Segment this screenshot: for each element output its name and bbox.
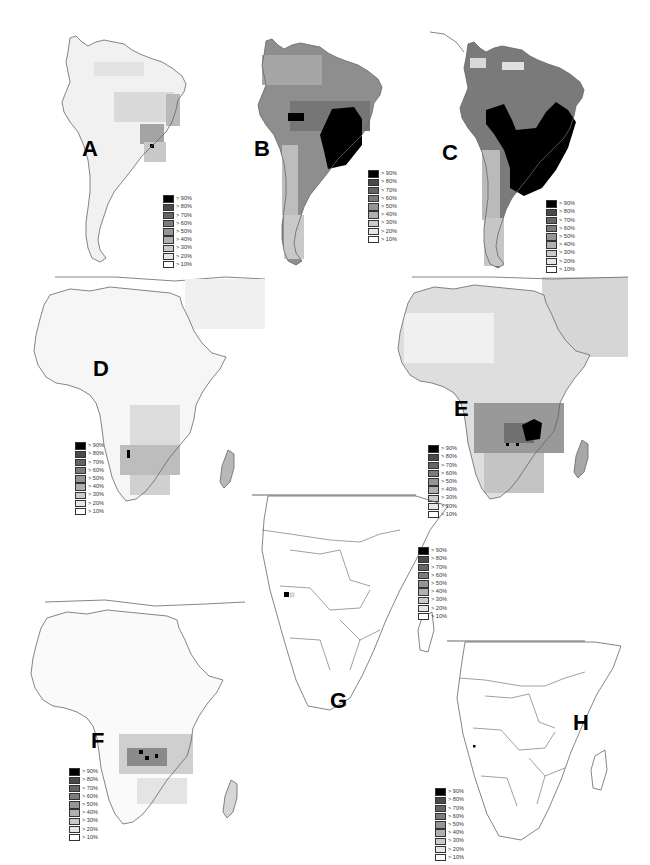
legend-swatch	[75, 467, 86, 474]
legend-label: > 40%	[88, 484, 104, 490]
legend-row: > 10%	[69, 834, 98, 842]
legend-swatch	[435, 829, 446, 836]
map-panel-e: E > 90%> 80%> 70%> 60%> 50%> 40%> 30%> 2…	[392, 275, 650, 490]
map-panel-d: D > 90%> 80%> 70%> 60%> 50%> 40%> 30%> 2…	[25, 275, 265, 520]
legend-swatch	[546, 258, 557, 265]
legend-label: > 60%	[176, 221, 192, 227]
legend-swatch	[163, 245, 174, 252]
legend-label: > 80%	[431, 556, 447, 562]
legend-swatch	[418, 564, 429, 571]
legend-label: > 10%	[559, 267, 575, 273]
legend-label: > 70%	[88, 460, 104, 466]
legend-swatch	[75, 451, 86, 458]
legend-label: > 30%	[176, 245, 192, 251]
legend-row: > 50%	[418, 580, 447, 588]
legend-label: > 50%	[448, 822, 464, 828]
panel-label-g: G	[330, 690, 347, 712]
legend-swatch	[163, 236, 174, 243]
legend-row: > 50%	[69, 801, 98, 809]
legend-label: > 20%	[448, 847, 464, 853]
legend-swatch	[435, 788, 446, 795]
panel-label-c: C	[442, 142, 458, 164]
legend-label: > 20%	[82, 827, 98, 833]
panel-label-b: B	[254, 138, 270, 160]
legend-label: > 90%	[448, 789, 464, 795]
panel-label-h: H	[573, 712, 589, 734]
legend-label: > 90%	[82, 769, 98, 775]
legend-row: > 20%	[418, 604, 447, 612]
legend-row: > 40%	[418, 588, 447, 596]
legend-swatch	[368, 179, 379, 186]
legend-swatch	[418, 580, 429, 587]
legend-row: > 20%	[75, 499, 104, 507]
legend-row: > 30%	[418, 596, 447, 604]
legend-row: > 30%	[435, 837, 464, 845]
legend-swatch	[69, 801, 80, 808]
legend-label: > 70%	[431, 565, 447, 571]
legend-h: > 90%> 80%> 70%> 60%> 50%> 40%> 30%> 20%…	[435, 788, 464, 862]
legend-row: > 60%	[69, 793, 98, 801]
legend-swatch	[69, 785, 80, 792]
legend-row: > 30%	[163, 244, 192, 252]
legend-row: > 20%	[368, 227, 397, 235]
legend-row: > 70%	[368, 186, 397, 194]
legend-swatch	[418, 556, 429, 563]
legend-row: > 80%	[163, 203, 192, 211]
legend-d: > 90%> 80%> 70%> 60%> 50%> 40%> 30%> 20%…	[75, 442, 104, 516]
legend-row: > 30%	[75, 491, 104, 499]
legend-swatch	[368, 236, 379, 243]
legend-swatch	[163, 261, 174, 268]
legend-label: > 40%	[431, 589, 447, 595]
legend-swatch	[163, 204, 174, 211]
legend-swatch	[75, 492, 86, 499]
legend-swatch	[546, 217, 557, 224]
legend-row: > 80%	[75, 450, 104, 458]
legend-swatch	[428, 454, 439, 461]
legend-swatch	[163, 253, 174, 260]
legend-label: > 60%	[381, 196, 397, 202]
legend-label: > 30%	[448, 838, 464, 844]
legend-swatch	[163, 220, 174, 227]
legend-row: > 20%	[435, 845, 464, 853]
legend-label: > 50%	[82, 802, 98, 808]
legend-row: > 50%	[163, 228, 192, 236]
legend-row: > 50%	[435, 821, 464, 829]
legend-label: > 80%	[448, 797, 464, 803]
legend-label: > 90%	[559, 201, 575, 207]
legend-label: > 50%	[88, 476, 104, 482]
legend-label: > 90%	[176, 196, 192, 202]
legend-row: > 90%	[75, 442, 104, 450]
legend-row: > 20%	[69, 825, 98, 833]
legend-swatch	[418, 572, 429, 579]
legend-row: > 90%	[428, 445, 457, 453]
legend-swatch	[418, 605, 429, 612]
legend-label: > 60%	[448, 814, 464, 820]
legend-label: > 40%	[381, 212, 397, 218]
legend-row: > 40%	[163, 236, 192, 244]
legend-label: > 80%	[176, 204, 192, 210]
legend-label: > 30%	[381, 220, 397, 226]
legend-row: > 40%	[435, 829, 464, 837]
legend-row: > 70%	[163, 211, 192, 219]
legend-swatch	[69, 768, 80, 775]
legend-b: > 90%> 80%> 70%> 60%> 50%> 40%> 30%> 20%…	[368, 170, 397, 244]
legend-row: > 10%	[75, 508, 104, 516]
legend-swatch	[163, 228, 174, 235]
legend-swatch	[69, 809, 80, 816]
panel-label-a: A	[82, 138, 98, 160]
legend-row: > 10%	[368, 236, 397, 244]
legend-row: > 60%	[546, 225, 575, 233]
legend-label: > 60%	[431, 573, 447, 579]
legend-row: > 70%	[435, 804, 464, 812]
legend-row: > 20%	[163, 252, 192, 260]
legend-label: > 90%	[441, 446, 457, 452]
legend-swatch	[546, 225, 557, 232]
legend-g: > 90%> 80%> 70%> 60%> 50%> 40%> 30%> 20%…	[418, 547, 447, 621]
panel-label-e: E	[454, 398, 469, 420]
legend-swatch	[428, 478, 439, 485]
legend-row: > 40%	[69, 809, 98, 817]
legend-label: > 10%	[381, 237, 397, 243]
legend-swatch	[428, 462, 439, 469]
legend-swatch	[368, 228, 379, 235]
legend-row: > 80%	[69, 776, 98, 784]
